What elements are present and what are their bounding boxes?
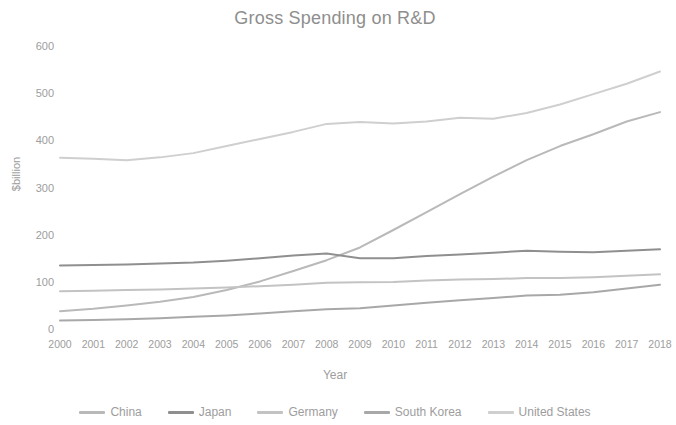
legend-swatch-icon: [168, 411, 194, 414]
chart-legend: ChinaJapanGermanySouth KoreaUnited State…: [0, 405, 670, 419]
series-line-united-states: [60, 72, 660, 161]
legend-item-united-states[interactable]: United States: [488, 405, 591, 419]
x-axis-title: Year: [0, 368, 670, 382]
legend-swatch-icon: [257, 411, 283, 414]
legend-item-germany[interactable]: Germany: [257, 405, 337, 419]
legend-item-south-korea[interactable]: South Korea: [364, 405, 462, 419]
legend-swatch-icon: [79, 411, 105, 414]
legend-swatch-icon: [364, 411, 390, 414]
legend-item-china[interactable]: China: [79, 405, 141, 419]
legend-swatch-icon: [488, 411, 514, 414]
legend-label: China: [110, 405, 141, 419]
legend-label: South Korea: [395, 405, 462, 419]
series-line-japan: [60, 249, 660, 265]
series-line-china: [60, 112, 660, 311]
legend-item-japan[interactable]: Japan: [168, 405, 232, 419]
legend-label: Japan: [199, 405, 232, 419]
series-line-germany: [60, 274, 660, 291]
legend-label: Germany: [288, 405, 337, 419]
legend-label: United States: [519, 405, 591, 419]
